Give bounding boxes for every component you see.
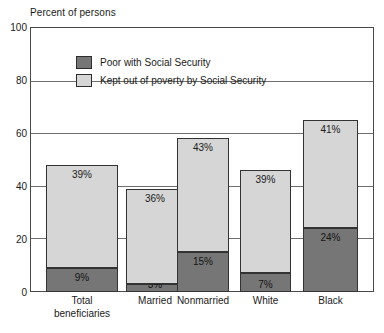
bar-segment-kept-out-of-poverty[interactable]: 39% bbox=[240, 170, 291, 273]
bar-segment-value-label: 39% bbox=[72, 170, 92, 267]
bar-segment-kept-out-of-poverty[interactable]: 43% bbox=[177, 138, 229, 252]
bar-segment-value-label: 36% bbox=[145, 194, 165, 283]
legend-item-kept-out-of-poverty: Kept out of poverty by Social Security bbox=[76, 72, 316, 89]
y-tick-label-80: 80 bbox=[1, 75, 27, 86]
bar-segment-poor[interactable]: 7% bbox=[240, 273, 291, 292]
legend-swatch-icon-light bbox=[76, 74, 92, 87]
stacked-bar-chart: Percent of persons 020406080100 9%39%3%3… bbox=[0, 0, 384, 333]
bar-segment-poor[interactable]: 15% bbox=[177, 252, 229, 292]
legend-label: Kept out of poverty by Social Security bbox=[100, 75, 266, 86]
x-axis-tick-labels: TotalbeneficiariesMarriedNonmarriedWhite… bbox=[30, 295, 374, 333]
legend-swatch-icon-dark bbox=[76, 56, 92, 69]
chart-legend: Poor with Social Security Kept out of po… bbox=[76, 54, 316, 90]
bar-group[interactable]: 24%41% bbox=[303, 120, 358, 292]
bar-segment-poor[interactable]: 3% bbox=[126, 284, 184, 292]
legend-item-poor-with-social-security: Poor with Social Security bbox=[76, 54, 316, 71]
bar-segment-value-label: 7% bbox=[258, 280, 272, 290]
bar-group[interactable]: 7%39% bbox=[240, 170, 291, 292]
bar-segment-value-label: 41% bbox=[320, 125, 340, 228]
y-tick-label-100: 100 bbox=[1, 22, 27, 33]
y-tick-label-0: 0 bbox=[1, 287, 27, 298]
chart-axis-title: Percent of persons bbox=[30, 7, 116, 18]
legend-label: Poor with Social Security bbox=[100, 57, 211, 68]
x-tick-label-line: Black bbox=[283, 295, 378, 308]
bar-segment-kept-out-of-poverty[interactable]: 39% bbox=[46, 165, 118, 268]
bar-segment-kept-out-of-poverty[interactable]: 41% bbox=[303, 120, 358, 229]
bar-segment-value-label: 9% bbox=[75, 273, 89, 291]
bar-group[interactable]: 15%43% bbox=[177, 138, 229, 292]
y-tick-label-40: 40 bbox=[1, 181, 27, 192]
y-tick-label-60: 60 bbox=[1, 128, 27, 139]
y-tick-label-20: 20 bbox=[1, 234, 27, 245]
bar-segment-poor[interactable]: 24% bbox=[303, 228, 358, 292]
bar-segment-value-label: 24% bbox=[320, 233, 340, 291]
bar-segment-value-label: 39% bbox=[255, 175, 275, 272]
x-tick-label-line: beneficiaries bbox=[26, 308, 138, 321]
bar-segment-poor[interactable]: 9% bbox=[46, 268, 118, 292]
bar-segment-value-label: 15% bbox=[193, 257, 213, 291]
x-tick-label: Black bbox=[283, 295, 378, 308]
bar-group[interactable]: 3%36% bbox=[126, 189, 184, 292]
y-axis-tick-labels: 020406080100 bbox=[0, 27, 27, 292]
bar-segment-kept-out-of-poverty[interactable]: 36% bbox=[126, 189, 184, 284]
bar-group[interactable]: 9%39% bbox=[46, 165, 118, 292]
bar-segment-value-label: 43% bbox=[193, 143, 213, 251]
